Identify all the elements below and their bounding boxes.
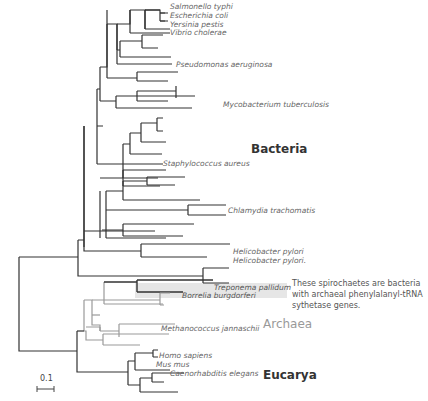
taxon-methanococcus: Methanococcus jannaschii <box>161 325 259 333</box>
taxon-staph: Staphylococcus aureus <box>163 160 250 168</box>
taxon-chlamydia: Chlamydia trachomatis <box>228 207 315 215</box>
spirochete-note: These spirochaetes are bacteria with arc… <box>292 278 428 311</box>
taxon-caenorhabditis: Caenorhabditis elegans <box>170 370 258 378</box>
group-eucarya: Eucarya <box>263 369 317 381</box>
taxon-ecoli: Escherichia coli <box>170 12 228 20</box>
taxon-mus: Mus mus <box>156 361 189 369</box>
taxon-borrelia: Borrelia burgdorferi <box>182 292 256 300</box>
taxon-helicobacter-1: Helicobacter pylori <box>233 248 304 256</box>
taxon-homo: Homo sapiens <box>159 352 212 360</box>
group-archaea: Archaea <box>263 318 312 330</box>
scale-bar <box>37 386 54 392</box>
taxon-pseudomonas: Pseudomonas aeruginosa <box>176 61 272 69</box>
taxon-vibrio: Vibrio cholerae <box>170 29 227 37</box>
scale-bar-label: 0.1 <box>40 374 53 383</box>
taxon-helicobacter-2: Helicobacter pylori. <box>233 257 306 265</box>
taxon-mycobacterium: Mycobacterium tuberculosis <box>223 101 329 109</box>
group-bacteria: Bacteria <box>251 143 307 155</box>
taxon-salmonella: Salmonello typhi <box>170 3 233 11</box>
